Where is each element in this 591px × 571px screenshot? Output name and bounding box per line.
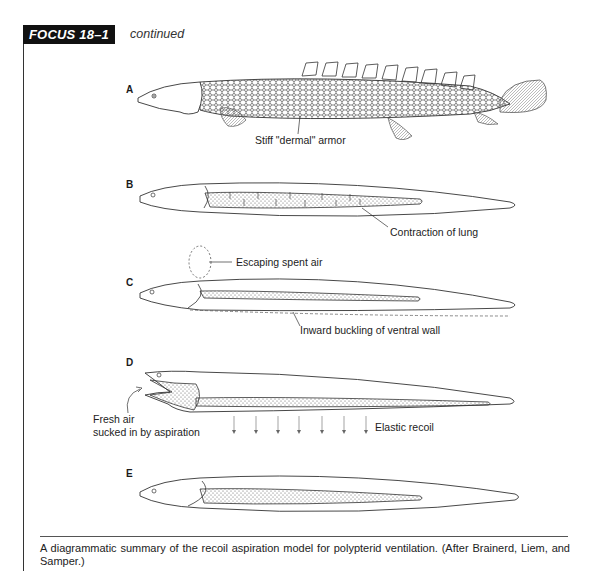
callout-escaping-air: Escaping spent air [236, 256, 322, 268]
panel-label-e: E [126, 468, 133, 479]
fish-d [127, 371, 514, 434]
callout-elastic-recoil: Elastic recoil [375, 421, 434, 433]
panel-label-b: B [126, 179, 133, 190]
polypterid-figure [0, 0, 591, 571]
caption-divider [40, 536, 568, 537]
fish-b [140, 183, 515, 227]
fish-e [140, 476, 519, 512]
panel-label-c: C [126, 277, 133, 288]
fish-c [140, 246, 515, 326]
figure-caption: A diagrammatic summary of the recoil asp… [40, 542, 570, 568]
callout-fresh-air: Fresh air [93, 413, 134, 425]
callout-dermal-armor: Stiff "dermal" armor [255, 134, 346, 146]
callout-contraction-of-lung: Contraction of lung [390, 226, 478, 238]
panel-label-d: D [126, 357, 133, 368]
callout-inward-buckling: Inward buckling of ventral wall [300, 324, 440, 336]
callout-sucked-in: sucked in by aspiration [93, 426, 200, 438]
fish-a [138, 62, 546, 140]
panel-label-a: A [126, 84, 133, 95]
